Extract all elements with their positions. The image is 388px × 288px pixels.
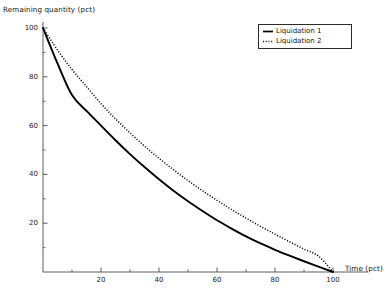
legend: Liquidation 1 Liquidation 2 — [258, 24, 352, 49]
series-group — [43, 28, 333, 272]
x-tick-label: 80 — [263, 276, 287, 284]
x-tick-label: 100 — [321, 276, 345, 284]
x-axis-title: Time (pct) — [345, 264, 383, 273]
legend-label-liquidation-2: Liquidation 2 — [276, 37, 322, 46]
y-tick-label: 60 — [16, 122, 38, 130]
legend-line-sample-dotted-icon — [262, 37, 276, 46]
x-tick-label: 60 — [205, 276, 229, 284]
y-tick-label: 80 — [16, 73, 38, 81]
y-tick-label: 40 — [16, 170, 38, 178]
x-tick-label: 40 — [147, 276, 171, 284]
y-tick-label: 20 — [16, 219, 38, 227]
chart-figure: Remaining quantity (pct) Time (pct) 2040… — [0, 0, 388, 288]
series-line-2 — [43, 28, 333, 272]
y-axis-title: Remaining quantity (pct) — [3, 5, 95, 14]
legend-label-liquidation-1: Liquidation 1 — [276, 27, 322, 36]
y-tick-label: 100 — [16, 24, 38, 32]
legend-entry-liquidation-2: Liquidation 2 — [262, 36, 322, 47]
axes-group — [43, 22, 368, 272]
x-tick-label: 20 — [89, 276, 113, 284]
legend-line-sample-solid-icon — [262, 27, 276, 36]
series-line-1 — [43, 28, 333, 272]
